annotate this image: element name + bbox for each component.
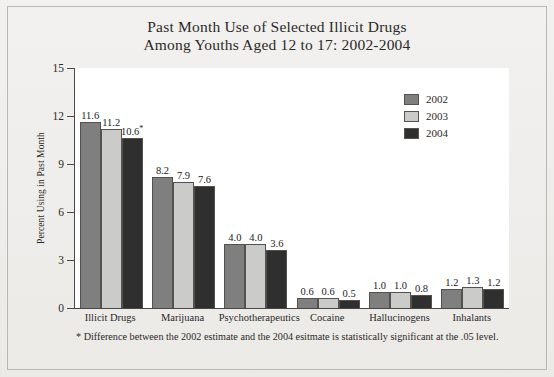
bar-2002: 4.0	[224, 244, 245, 308]
significance-marker: *	[139, 124, 143, 133]
y-axis-tick-label: 0	[58, 302, 64, 314]
chart-title-line-2: Among Youths Aged 12 to 17: 2002-2004	[0, 36, 554, 54]
x-axis-label: Cocaine	[291, 312, 363, 323]
bar-2002: 11.6	[80, 122, 101, 308]
bar-value-label: 1.2	[487, 277, 500, 288]
legend-swatch	[404, 111, 419, 122]
legend-item-2003: 2003	[404, 109, 448, 123]
bar-2004: 0.8	[411, 295, 432, 308]
bar-2002: 1.0	[369, 292, 390, 308]
bar-value-label: 3.6	[270, 238, 283, 249]
legend-swatch	[404, 94, 419, 105]
chart-footnote: * Difference between the 2002 estimate a…	[76, 331, 516, 342]
bar-group: 8.27.97.6	[147, 68, 219, 308]
bar-value-label: 0.8	[415, 283, 428, 294]
bar-value-label: 11.2	[102, 117, 120, 128]
bar-2002: 8.2	[152, 177, 173, 308]
bar-value-label: 8.2	[156, 165, 169, 176]
bar-value-label: 1.3	[466, 275, 479, 286]
bar-2003: 1.0	[390, 292, 411, 308]
bar-2003: 0.6	[318, 298, 339, 308]
bar-value-label: 0.6	[322, 286, 335, 297]
y-axis-tick-label: 6	[58, 206, 64, 218]
y-axis-tick-mark	[67, 260, 75, 261]
y-axis-tick-mark	[67, 68, 75, 69]
y-axis-tick-mark	[67, 212, 75, 213]
x-axis-label: Hallucinogens	[363, 312, 435, 323]
bar-2004: 1.2	[483, 289, 504, 308]
bar-2004: 3.6	[266, 250, 287, 308]
chart-figure: Past Month Use of Selected Illicit Drugs…	[0, 0, 554, 377]
y-axis-tick-mark	[67, 164, 75, 165]
bar-2004: 0.5	[339, 300, 360, 308]
bar-2003: 4.0	[245, 244, 266, 308]
bar-group: 0.60.60.5	[292, 68, 364, 308]
bar-2004: 10.6*	[122, 138, 143, 308]
x-axis-label: Illicit Drugs	[74, 312, 146, 323]
bar-value-label: 7.9	[177, 170, 190, 181]
y-axis-tick-mark	[67, 116, 75, 117]
chart-title-line-1: Past Month Use of Selected Illicit Drugs	[0, 18, 554, 36]
bar-2002: 0.6	[297, 298, 318, 308]
y-axis-tick-label: 3	[58, 254, 64, 266]
x-axis-label: Marijuana	[146, 312, 218, 323]
bar-value-label: 1.2	[445, 277, 458, 288]
bar-value-label: 10.6*	[121, 126, 143, 137]
chart-title: Past Month Use of Selected Illicit Drugs…	[0, 18, 554, 55]
y-axis-title: Percent Using in Past Month	[36, 68, 50, 308]
bar-2003: 7.9	[173, 182, 194, 308]
legend-item-2004: 2004	[404, 126, 448, 140]
bar-value-label: 1.0	[394, 280, 407, 291]
chart-legend: 200220032004	[404, 92, 448, 143]
bar-2003: 1.3	[462, 287, 483, 308]
y-axis-tick-label: 15	[53, 62, 65, 74]
x-axis-label: Inhalants	[436, 312, 508, 323]
bar-value-label: 4.0	[249, 232, 262, 243]
legend-label: 2003	[426, 110, 448, 122]
legend-swatch	[404, 128, 419, 139]
bar-2002: 1.2	[441, 289, 462, 308]
x-axis-label: Psychotherapeutics	[219, 312, 291, 323]
bar-group: 11.611.210.6*	[75, 68, 147, 308]
bar-2003: 11.2	[101, 129, 122, 308]
bar-2004: 7.6	[194, 186, 215, 308]
legend-label: 2002	[426, 93, 448, 105]
y-axis-tick-label: 12	[53, 110, 65, 122]
bar-value-label: 0.5	[343, 288, 356, 299]
legend-item-2002: 2002	[404, 92, 448, 106]
legend-label: 2004	[426, 127, 448, 139]
bar-value-label: 11.6	[81, 110, 99, 121]
bar-value-label: 4.0	[228, 232, 241, 243]
bar-value-label: 7.6	[198, 174, 211, 185]
bar-value-label: 1.0	[373, 280, 386, 291]
y-axis-tick-label: 9	[58, 158, 64, 170]
y-axis-tick-mark	[67, 308, 75, 309]
bar-group: 4.04.03.6	[220, 68, 292, 308]
bar-value-label: 0.6	[301, 286, 314, 297]
